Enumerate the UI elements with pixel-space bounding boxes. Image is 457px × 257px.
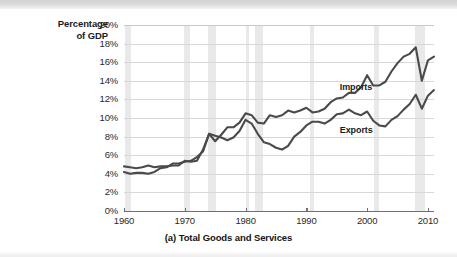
x-tick [367,208,368,212]
chart-figure: Percentage of GDP 0%2%4%6%8%10%12%14%16%… [0,0,457,257]
y-tick-label: 6% [92,149,118,160]
x-tick-label: 1990 [286,215,326,226]
y-tick-label: 14% [92,75,118,86]
x-tick [185,208,186,212]
line-imports [124,47,434,173]
x-tick-label: 1980 [226,215,266,226]
x-tick [246,208,247,212]
y-tick-label: 2% [92,186,118,197]
x-tick [306,208,307,212]
figure-caption: (a) Total Goods and Services [0,232,457,243]
data-series-lines [124,25,434,211]
y-tick-label: 12% [92,93,118,104]
series-label-imports: Imports [340,82,372,92]
y-tick-label: 10% [92,112,118,123]
y-tick-label: 20% [92,19,118,30]
y-tick-label: 18% [92,38,118,49]
x-tick [428,208,429,212]
x-tick-label: 1960 [104,215,144,226]
x-axis-line [124,211,434,212]
y-tick-label: 4% [92,168,118,179]
line-exports [124,90,434,168]
x-tick-label: 2010 [408,215,448,226]
y-tick-label: 8% [92,131,118,142]
scan-artifact-bottom [0,252,457,257]
x-tick-label: 2000 [347,215,387,226]
scan-artifact-top [0,0,457,9]
x-tick-label: 1970 [165,215,205,226]
plot-area: ImportsExports [124,25,434,211]
x-tick [124,208,125,212]
series-label-exports: Exports [340,125,373,135]
y-tick-label: 16% [92,56,118,67]
